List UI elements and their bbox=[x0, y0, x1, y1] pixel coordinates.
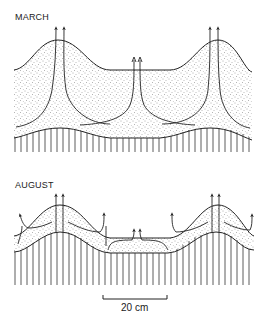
scale-bar bbox=[103, 295, 167, 299]
march-label: MARCH bbox=[15, 12, 49, 22]
august-stippled-layer bbox=[14, 205, 254, 253]
august-label: AUGUST bbox=[15, 180, 54, 190]
scale-bar-label: 20 cm bbox=[121, 302, 148, 313]
march-panel bbox=[14, 28, 252, 152]
august-panel bbox=[14, 195, 254, 285]
diagram-figure bbox=[0, 0, 266, 321]
